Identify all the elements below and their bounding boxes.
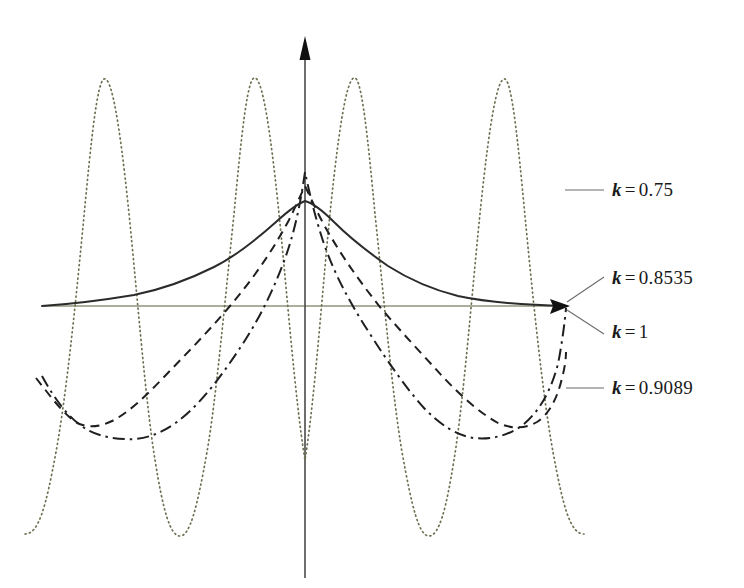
- legend-equals-k08535: =: [624, 267, 639, 288]
- legend-leader-lines: [565, 190, 604, 388]
- leader-line-k1: [567, 310, 604, 334]
- leader-line-k08535: [567, 277, 604, 302]
- legend-label-k-0-75: k=0.75: [612, 179, 673, 201]
- curve-k-09089: [36, 186, 566, 427]
- y-axis-arrow-icon: [300, 36, 311, 60]
- legend-label-k-0-9089: k=0.9089: [612, 377, 693, 399]
- legend-k-symbol-k08535: k: [612, 267, 624, 288]
- legend-value-k1: 1: [639, 321, 649, 342]
- legend-equals-k075: =: [624, 179, 639, 200]
- right-convergence-arrow-icon: [550, 299, 570, 314]
- curve-k-075: [42, 201, 566, 306]
- legend-value-k09089: 0.9089: [639, 377, 694, 398]
- figure-canvas: k=0.75 k=0.8535 k=1 k=0.9089: [0, 0, 744, 588]
- legend-equals-k1: =: [624, 321, 639, 342]
- plot-area: [0, 0, 744, 588]
- legend-k-symbol-k075: k: [612, 179, 624, 200]
- axis-group: [42, 36, 568, 578]
- legend-value-k08535: 0.8535: [639, 267, 694, 288]
- legend-value-k075: 0.75: [639, 179, 674, 200]
- legend-k-symbol-k1: k: [612, 321, 624, 342]
- legend-equals-k09089: =: [624, 377, 639, 398]
- legend-k-symbol-k09089: k: [612, 377, 624, 398]
- legend-label-k-0-8535: k=0.8535: [612, 267, 693, 289]
- legend-label-k-1: k=1: [612, 321, 649, 343]
